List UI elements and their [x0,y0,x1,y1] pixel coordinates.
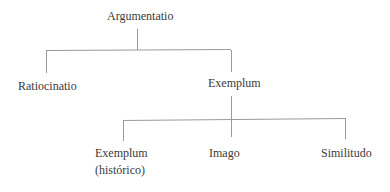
node-argumentatio: Argumentatio [107,9,173,23]
node-ratiocinatio: Ratiocinatio [18,79,77,93]
node-exemplum: Exemplum [208,76,261,90]
node-similitudo: Similitudo [321,146,372,160]
node-exemplum-historico: Exemplum [95,146,148,160]
node-exemplum-historico-sublabel: (histórico) [95,163,145,177]
node-imago: Imago [209,146,240,160]
connector-level2-bar [123,119,345,121]
tree-connectors [0,0,390,192]
connector-level1-bar [46,50,231,51]
